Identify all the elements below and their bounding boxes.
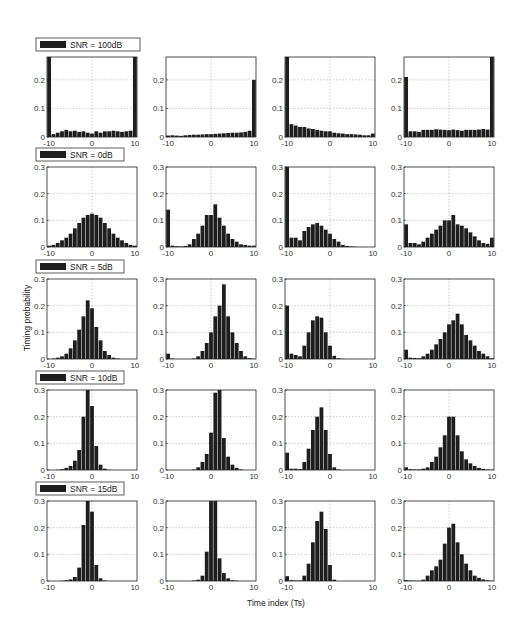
histogram-bar bbox=[315, 417, 319, 470]
x-tick-label: 10 bbox=[368, 472, 377, 481]
y-tick-label: 0.1 bbox=[34, 328, 46, 337]
histogram-bar bbox=[486, 244, 490, 247]
x-tick-label: 10 bbox=[368, 583, 377, 592]
histogram-bar bbox=[82, 131, 86, 137]
x-tick-label: 0 bbox=[447, 583, 452, 592]
histogram-bar bbox=[469, 340, 473, 359]
x-tick-label: -10 bbox=[400, 249, 412, 258]
legend-snr-3: SNR = 10dB bbox=[36, 371, 124, 384]
y-tick-label: 0.3 bbox=[34, 386, 46, 395]
histogram-panel-r1-c0: 00.10.20.3-10010 bbox=[34, 163, 140, 258]
y-tick-label: 0.3 bbox=[391, 386, 403, 395]
legend-label: SNR = 15dB bbox=[70, 484, 118, 494]
histogram-bar bbox=[218, 306, 222, 359]
histogram-bar bbox=[99, 465, 103, 470]
histogram-bar bbox=[218, 558, 222, 581]
histogram-bar bbox=[328, 131, 332, 137]
y-tick-label: 0.1 bbox=[34, 550, 46, 559]
histogram-bar bbox=[464, 228, 468, 247]
y-tick-label: 0.3 bbox=[153, 497, 165, 506]
histogram-panel-r0-c0: 00.10.2-10010 bbox=[34, 57, 140, 148]
y-tick-label: 0.1 bbox=[153, 328, 165, 337]
histogram-bar bbox=[486, 130, 490, 137]
histogram-bar bbox=[56, 243, 60, 247]
x-tick-label: -10 bbox=[162, 361, 174, 370]
x-tick-label: 0 bbox=[90, 249, 95, 258]
histogram-bar bbox=[469, 570, 473, 581]
x-tick-label: -10 bbox=[281, 583, 293, 592]
histogram-bar bbox=[426, 130, 430, 137]
histogram-bar bbox=[231, 239, 235, 247]
histogram-bar bbox=[192, 239, 196, 247]
histogram-bar bbox=[120, 132, 124, 137]
histogram-bar bbox=[328, 565, 332, 581]
y-tick-label: 0.1 bbox=[272, 328, 284, 337]
histogram-bar bbox=[99, 340, 103, 359]
histogram-bar bbox=[73, 131, 77, 137]
y-tick-label: 0.1 bbox=[272, 104, 284, 113]
histogram-bar bbox=[82, 218, 86, 247]
histogram-bar bbox=[307, 564, 311, 581]
histogram-bar bbox=[447, 220, 451, 247]
histogram-bar bbox=[447, 130, 451, 137]
histogram-bar bbox=[243, 132, 247, 137]
y-tick-label: 0.1 bbox=[391, 439, 403, 448]
x-tick-label: -10 bbox=[162, 139, 174, 148]
histogram-bar bbox=[248, 131, 252, 137]
histogram-bar bbox=[222, 226, 226, 247]
histogram-bar bbox=[443, 220, 447, 247]
histogram-bar bbox=[481, 354, 485, 359]
histogram-bar bbox=[231, 133, 235, 137]
y-tick-label: 0.1 bbox=[34, 439, 46, 448]
x-tick-label: -10 bbox=[281, 249, 293, 258]
histogram-bar bbox=[350, 134, 354, 137]
histogram-panel-r0-c3: 00.10.2-10010 bbox=[391, 57, 497, 148]
histogram-bar bbox=[456, 224, 460, 247]
y-tick-label: 0.3 bbox=[34, 275, 46, 284]
histogram-bar bbox=[421, 130, 425, 137]
histogram-bar bbox=[209, 433, 213, 470]
y-tick-label: 0.2 bbox=[391, 524, 403, 533]
histogram-bar bbox=[218, 218, 222, 247]
histogram-panel-r3-c3: 00.10.20.3-10010 bbox=[391, 386, 497, 481]
histogram-bar bbox=[439, 447, 443, 470]
histogram-panel-r4-c0: 00.10.20.3-10010 bbox=[34, 497, 140, 592]
histogram-bar bbox=[456, 435, 460, 470]
histogram-bar bbox=[77, 568, 81, 581]
histogram-bar bbox=[345, 134, 349, 137]
histogram-bar bbox=[116, 131, 120, 137]
x-tick-label: -10 bbox=[281, 361, 293, 370]
histogram-bar bbox=[434, 566, 438, 581]
histogram-bar bbox=[120, 240, 124, 247]
histogram-bar bbox=[337, 242, 341, 247]
histogram-bar bbox=[434, 344, 438, 359]
x-tick-label: 10 bbox=[487, 249, 496, 258]
histogram-bar bbox=[302, 462, 306, 470]
histogram-bar bbox=[124, 131, 128, 137]
histogram-bar bbox=[52, 134, 56, 137]
histogram-bar bbox=[103, 131, 107, 137]
histogram-bar bbox=[456, 130, 460, 137]
histogram-bar bbox=[226, 578, 230, 581]
y-tick-label: 0.2 bbox=[391, 190, 403, 199]
histogram-bar bbox=[64, 354, 68, 359]
histogram-bar bbox=[490, 57, 494, 137]
histogram-bar bbox=[90, 308, 94, 359]
y-tick-label: 0.1 bbox=[391, 328, 403, 337]
histogram-bar bbox=[90, 134, 94, 137]
histogram-bar bbox=[473, 236, 477, 247]
histogram-bar bbox=[290, 124, 294, 137]
legend-swatch bbox=[40, 263, 66, 270]
histogram-bar bbox=[213, 204, 217, 247]
histogram-bar bbox=[107, 228, 111, 247]
histogram-bar bbox=[94, 565, 98, 581]
x-tick-label: 0 bbox=[209, 583, 214, 592]
histogram-bar bbox=[222, 284, 226, 359]
x-tick-label: -10 bbox=[43, 583, 55, 592]
histogram-bar bbox=[447, 528, 451, 581]
histogram-bar bbox=[231, 332, 235, 359]
histogram-bar bbox=[332, 356, 336, 359]
y-tick-label: 0.2 bbox=[272, 190, 284, 199]
histogram-bar bbox=[226, 457, 230, 470]
histogram-bar bbox=[86, 501, 90, 581]
